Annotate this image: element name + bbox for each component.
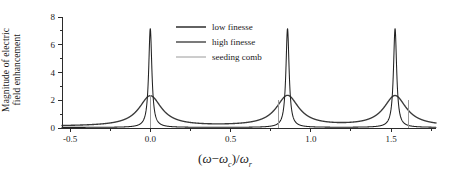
y-tick-label-4: 8 — [51, 12, 56, 22]
x-tick-label-1: 0.0 — [145, 134, 157, 144]
chart-legend: low finessehigh finesseseeding comb — [176, 22, 262, 62]
legend-label-high-finesse: high finesse — [212, 37, 255, 47]
chart-figure: -0.50.00.51.01.502468 low finessehigh fi… — [0, 0, 450, 178]
axes-group — [58, 17, 436, 132]
resonance-plot: -0.50.00.51.01.502468 low finessehigh fi… — [0, 0, 450, 178]
legend-label-seeding-comb: seeding comb — [212, 52, 262, 62]
x-tick-label-3: 1.0 — [305, 134, 317, 144]
x-tick-label-4: 1.5 — [385, 134, 397, 144]
x-tick-label-2: 0.5 — [225, 134, 237, 144]
legend-label-low-finesse: low finesse — [212, 22, 253, 32]
x-tick-label-0: -0.5 — [63, 134, 78, 144]
y-tick-label-1: 2 — [51, 95, 56, 105]
seeding-comb-group — [150, 95, 408, 128]
series-curve-low-finesse — [62, 95, 436, 125]
y-tick-label-3: 6 — [51, 40, 56, 50]
y-tick-label-2: 4 — [51, 68, 56, 78]
y-tick-label-0: 0 — [51, 123, 56, 133]
